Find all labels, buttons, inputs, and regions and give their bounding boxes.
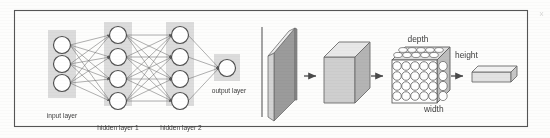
node-hidden1-3 <box>110 71 127 88</box>
diagram-svg: input layer hidden layer 1 hidden layer … <box>0 0 550 138</box>
label-hidden-layer-1: hidden layer 1 <box>97 124 139 132</box>
label-output-layer: output layer <box>212 87 247 95</box>
node-hidden1-4 <box>110 93 127 110</box>
node-input-3 <box>54 75 71 92</box>
label-hidden-layer-2: hidden layer 2 <box>160 124 202 132</box>
figure-canvas: input layer hidden layer 1 hidden layer … <box>0 0 550 138</box>
label-height: height <box>455 50 478 60</box>
node-hidden2-2 <box>172 49 189 66</box>
label-input-layer: input layer <box>47 112 78 120</box>
node-hidden2-4 <box>172 93 189 110</box>
node-input-1 <box>54 37 71 54</box>
node-hidden2-3 <box>172 71 189 88</box>
node-output-1 <box>219 60 236 77</box>
node-hidden1-1 <box>110 27 127 44</box>
neuron-volume-top-circles <box>394 48 444 58</box>
node-hidden2-1 <box>172 27 189 44</box>
label-depth: depth <box>408 34 429 44</box>
node-hidden1-2 <box>110 49 127 66</box>
label-width: width <box>423 104 444 114</box>
stage-output-vector <box>472 66 517 82</box>
stage-conv-cube <box>324 42 370 103</box>
node-input-2 <box>54 56 71 73</box>
